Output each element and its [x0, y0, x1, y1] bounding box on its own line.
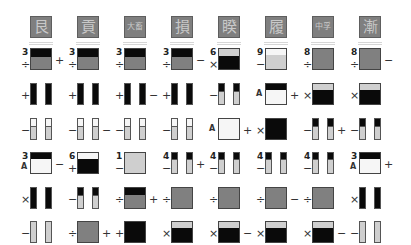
bar-block	[327, 152, 334, 174]
bar-block	[30, 118, 37, 140]
count-label: 3	[22, 47, 28, 57]
grid-cell[interactable]: −	[359, 118, 405, 142]
square-block	[124, 221, 146, 243]
bar-block	[186, 118, 193, 140]
square-block	[359, 152, 381, 174]
bar-block	[280, 152, 287, 174]
square-block	[312, 48, 334, 70]
bar-top-segment	[360, 119, 365, 127]
header-glyph-tile: 貢	[77, 16, 99, 38]
bar-top-segment	[360, 188, 365, 209]
bar-top-segment	[172, 84, 177, 105]
square-block	[359, 83, 381, 105]
bar-block	[30, 83, 37, 105]
header-separator	[76, 42, 100, 45]
bar-block	[374, 221, 381, 243]
bar-block	[45, 83, 52, 105]
bar-top-segment	[219, 153, 224, 160]
operator-prefix: −	[68, 125, 77, 136]
header-separator	[311, 42, 335, 45]
operator-prefix: A	[350, 163, 356, 171]
operator-suffix: +	[290, 90, 299, 101]
bar-block	[124, 83, 131, 105]
square-block	[171, 187, 193, 209]
count-label: 1	[116, 151, 122, 161]
operator-suffix: −	[196, 55, 205, 66]
operator-prefix: ×	[209, 59, 218, 70]
header-separator	[217, 42, 241, 45]
bar-top-segment	[328, 119, 333, 127]
count-label: 6	[210, 47, 216, 57]
grid-cell[interactable]: ×	[359, 83, 405, 107]
square-block	[30, 152, 52, 174]
square-block	[77, 152, 99, 174]
operator-prefix: ×	[350, 90, 359, 101]
top-band	[313, 222, 333, 228]
operator-prefix: +	[162, 90, 171, 101]
bar-top-segment	[328, 153, 333, 160]
operator-prefix: −	[350, 228, 359, 239]
square-block	[265, 221, 287, 243]
header-glyph-tile: 睽	[218, 16, 240, 38]
operator-prefix: ÷	[256, 194, 265, 205]
operator-suffix: −	[337, 228, 346, 239]
operator-prefix: ×	[303, 228, 312, 239]
operator-prefix: −	[209, 90, 218, 101]
operator-suffix: +	[55, 55, 64, 66]
top-band	[266, 84, 286, 90]
operator-suffix: −	[243, 228, 252, 239]
bar-top-segment	[266, 153, 271, 160]
operator-suffix: −	[384, 55, 393, 66]
top-band	[172, 49, 192, 57]
header-separator	[29, 42, 53, 45]
bar-top-segment	[234, 153, 239, 160]
header-separator	[358, 42, 382, 45]
bar-top-segment	[46, 84, 51, 105]
header-separator	[170, 42, 194, 45]
count-label: 3	[116, 47, 122, 57]
count-label: 3	[69, 47, 75, 57]
top-band	[266, 49, 286, 55]
bar-block	[77, 187, 84, 209]
bar-top-segment	[93, 188, 98, 196]
operator-suffix: +	[102, 228, 111, 239]
count-label: 3	[351, 151, 357, 161]
bar-top-segment	[78, 119, 83, 127]
grid-cell[interactable]: −	[359, 221, 405, 245]
top-band	[31, 153, 51, 159]
grid-cell[interactable]: ×	[359, 187, 405, 211]
square-block	[312, 83, 334, 105]
bar-top-segment	[313, 119, 318, 127]
top-band	[266, 222, 286, 228]
bar-top-segment	[46, 188, 51, 209]
bar-block	[265, 152, 272, 174]
operator-prefix: ×	[256, 228, 265, 239]
grid-cell[interactable]: 8÷−	[359, 48, 405, 72]
bar-top-segment	[46, 222, 51, 243]
operator-prefix: −	[115, 163, 124, 174]
bar-block	[124, 118, 131, 140]
operator-prefix: −	[303, 163, 312, 174]
operator-suffix: −	[102, 125, 111, 136]
bar-block	[218, 83, 225, 105]
count-label: 9	[257, 47, 263, 57]
bar-block	[77, 118, 84, 140]
bar-top-segment	[93, 84, 98, 105]
grid-cell[interactable]: 3A+	[359, 152, 405, 176]
square-block	[265, 118, 287, 140]
operator-prefix: ÷	[162, 59, 171, 70]
bar-top-segment	[234, 84, 239, 92]
top-band	[360, 84, 380, 90]
bar-block	[139, 118, 146, 140]
operator-prefix: ×	[256, 125, 265, 136]
operator-prefix: ×	[21, 194, 30, 205]
header-separator	[123, 42, 147, 45]
bar-top-segment	[172, 119, 177, 127]
bar-top-segment	[125, 84, 130, 105]
top-band	[172, 222, 192, 228]
bar-top-segment	[125, 119, 130, 127]
bar-block	[45, 118, 52, 140]
operator-prefix: ×	[303, 90, 312, 101]
operator-prefix: −	[256, 59, 265, 70]
square-block	[218, 48, 240, 70]
